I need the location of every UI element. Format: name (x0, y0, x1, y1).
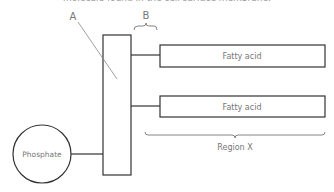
phosphate-label: Phosphate (22, 150, 62, 159)
phospholipid-diagram: A B Fatty acid Fatty acid Region X Phosp… (0, 0, 334, 192)
fatty-acid-1-label: Fatty acid (223, 52, 262, 61)
brace-b (134, 23, 157, 30)
label-region-x: Region X (217, 143, 253, 152)
glycerol-backbone (103, 35, 131, 175)
fatty-acid-2-label: Fatty acid (223, 103, 262, 112)
label-a: A (70, 11, 77, 22)
brace-region-x (145, 132, 325, 138)
label-b: B (143, 10, 150, 21)
pointer-a-line (78, 22, 117, 79)
